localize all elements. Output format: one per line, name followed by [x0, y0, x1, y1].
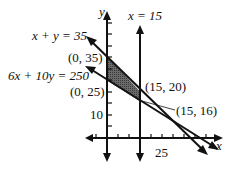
x-tick-label: 25	[155, 145, 168, 160]
feasible-region	[107, 57, 140, 101]
arrow-down-icon	[136, 153, 144, 162]
point-label-0-35: (0, 35)	[68, 50, 103, 65]
line-label-6x-plus-10y: 6x + 10y = 250	[8, 68, 90, 83]
point-label-15-16: (15, 16)	[176, 103, 217, 118]
line-label-x-plus-y: x + y = 35	[31, 28, 88, 43]
line-label-x-equals-15: x = 15	[127, 8, 163, 23]
y-axis-label: y	[97, 4, 105, 19]
x-axis-arrow-left-icon	[85, 134, 93, 142]
arrow-up-icon	[136, 25, 144, 34]
x-axis	[85, 134, 223, 142]
x-axis-label: x	[215, 138, 222, 153]
point-label-0-25: (0, 25)	[70, 84, 105, 99]
y-axis-arrow-down-icon	[103, 153, 111, 162]
lp-diagram: y x 25 10 x + y = 35 6x + 10y = 250 x = …	[0, 0, 229, 170]
point-label-15-20: (15, 20)	[145, 79, 186, 94]
y-tick-label: 10	[90, 107, 103, 122]
